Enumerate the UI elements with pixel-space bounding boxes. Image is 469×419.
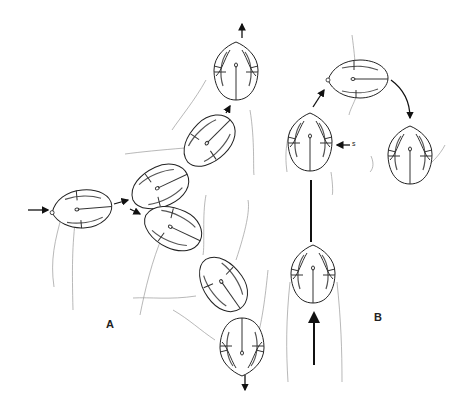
thread <box>125 148 185 154</box>
arrow-branch-up <box>114 200 128 204</box>
arrow-b-curve-to-right <box>391 80 410 118</box>
thread <box>337 282 342 382</box>
grain-upper-top <box>214 42 258 100</box>
thread <box>331 172 333 195</box>
arrow-branch-down <box>130 209 140 214</box>
arrow-b-up-to-top <box>313 90 324 107</box>
thread <box>370 156 373 172</box>
panel-a-label: A <box>106 318 114 330</box>
grain-b-middle <box>288 113 332 171</box>
thread <box>287 282 290 382</box>
grain-upper-mid <box>174 106 245 177</box>
thread <box>173 310 215 340</box>
thread <box>53 215 62 287</box>
thread <box>133 296 196 298</box>
side-marker-label: s <box>352 140 356 147</box>
figure-drawing <box>0 0 469 419</box>
panel-b-label: B <box>374 311 382 323</box>
grain-lower-mid <box>189 248 256 320</box>
grain-b-bottom <box>291 245 335 303</box>
grain-b-right <box>388 126 432 184</box>
thread <box>250 110 254 175</box>
figure: A B s <box>0 0 469 419</box>
thread <box>140 235 163 315</box>
thread <box>203 195 206 255</box>
grain-lower-bottom <box>220 318 264 376</box>
thread <box>236 200 249 260</box>
panel-b <box>286 35 445 382</box>
grain-entry <box>48 187 113 230</box>
arrow-upper-link <box>226 106 230 113</box>
thread <box>258 270 268 335</box>
panel-a <box>28 24 268 390</box>
grain-b-top <box>326 60 388 98</box>
thread <box>72 215 76 310</box>
